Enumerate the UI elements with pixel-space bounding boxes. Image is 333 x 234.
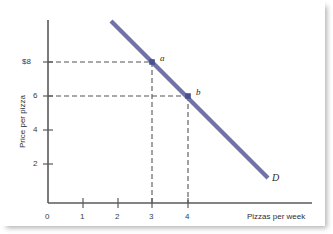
figure-card: $8 6 4 2 0 1 2 3 4 Price per pizza Pizza… [0,0,325,226]
data-point-a-label: a [160,53,165,63]
data-point-a-marker [149,59,155,65]
demand-curve-plot [0,0,325,226]
chart-screenshot: $8 6 4 2 0 1 2 3 4 Price per pizza Pizza… [0,0,333,234]
y-tick-label-4: 4 [33,125,37,134]
demand-curve-line [111,21,268,178]
x-tick-label-3: 3 [149,212,153,221]
demand-curve-label: D [272,172,279,183]
x-tick-label-4: 4 [185,212,189,221]
y-tick-label-2: 2 [33,159,37,168]
y-tick-label-8: $8 [22,57,31,66]
data-point-b-marker [185,93,191,99]
x-tick-label-2: 2 [115,212,119,221]
x-tick-label-1: 1 [80,212,84,221]
x-tick-label-0: 0 [45,212,49,221]
y-axis-title: Price per pizza [18,95,27,148]
x-axis-title: Pizzas per week [247,212,305,221]
y-tick-label-6: 6 [33,91,37,100]
data-point-b-label: b [196,87,201,97]
